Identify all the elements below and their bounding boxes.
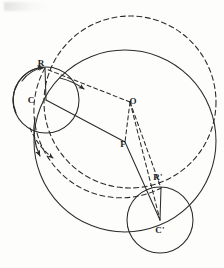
segment-r-c	[45, 68, 46, 100]
geometry-canvas: R C O F R' C'	[0, 0, 224, 268]
segment-o-f	[125, 102, 130, 142]
label-point-rprime: R'	[153, 172, 162, 182]
segment-o-r	[46, 69, 130, 102]
label-point-r: R	[38, 58, 45, 68]
geometry-figure: R C O F R' C'	[0, 0, 224, 268]
segment-o-cprime	[130, 102, 160, 220]
label-point-f: F	[120, 139, 126, 149]
segment-rprime-cprime	[160, 188, 161, 220]
label-point-o: O	[129, 96, 136, 106]
label-point-c: C	[28, 95, 35, 105]
segment-c-f	[46, 100, 125, 142]
inner-dashed-arc	[34, 68, 161, 198]
label-point-cprime: C'	[155, 225, 164, 235]
